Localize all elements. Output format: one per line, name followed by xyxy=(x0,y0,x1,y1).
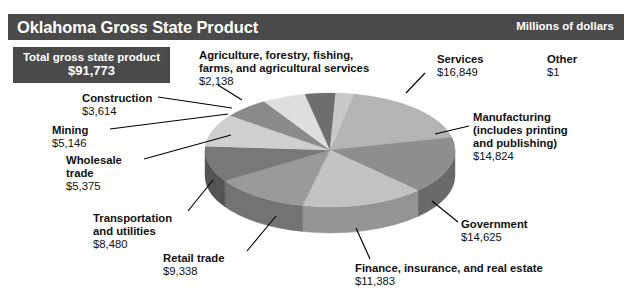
label-mining: Mining $5,146 xyxy=(52,124,88,150)
label-transportation-and-utilities: Transportation and utilities $8,480 xyxy=(93,212,172,251)
label-wholesale-name: Wholesale xyxy=(66,154,122,167)
label-retail-value: $9,338 xyxy=(163,265,225,278)
label-manufacturing-value: $14,824 xyxy=(473,150,568,163)
label-construction-value: $3,614 xyxy=(82,105,152,118)
label-other-value: $1 xyxy=(547,66,577,79)
label-mining-name: Mining xyxy=(52,124,88,137)
label-agriculture-name: Agriculture, forestry, fishing, xyxy=(199,49,369,62)
label-finance-name: Finance, insurance, and real estate xyxy=(355,262,543,275)
label-transportation-value: $8,480 xyxy=(93,238,172,251)
label-government-value: $14,625 xyxy=(461,231,528,244)
label-construction: Construction $3,614 xyxy=(82,92,152,118)
label-finance-insurance-real-estate: Finance, insurance, and real estate $11,… xyxy=(355,262,543,288)
label-manufacturing-name2: (includes printing xyxy=(473,124,568,137)
label-government-name: Government xyxy=(461,218,528,231)
label-manufacturing-name3: and publishing) xyxy=(473,137,568,150)
label-services: Services $16,849 xyxy=(437,53,483,79)
label-transportation-name2: and utilities xyxy=(93,225,172,238)
pie-top-faces xyxy=(205,93,455,207)
label-services-name: Services xyxy=(437,53,483,66)
infographic-root: Oklahoma Gross State Product Millions of… xyxy=(0,0,632,296)
label-construction-name: Construction xyxy=(82,92,152,105)
label-other: Other $1 xyxy=(547,53,577,79)
label-manufacturing-name: Manufacturing xyxy=(473,111,568,124)
label-mining-value: $5,146 xyxy=(52,137,88,150)
label-agriculture-name2: farms, and agricultural services xyxy=(199,62,369,75)
label-other-name: Other xyxy=(547,53,577,66)
label-manufacturing: Manufacturing (includes printing and pub… xyxy=(473,111,568,163)
label-wholesale-trade: Wholesale trade $5,375 xyxy=(66,154,122,193)
label-agriculture: Agriculture, forestry, fishing, farms, a… xyxy=(199,49,369,88)
label-wholesale-value: $5,375 xyxy=(66,180,122,193)
label-services-value: $16,849 xyxy=(437,66,483,79)
label-government: Government $14,625 xyxy=(461,218,528,244)
label-agriculture-value: $2,138 xyxy=(199,75,369,88)
label-finance-value: $11,383 xyxy=(355,275,543,288)
label-retail-trade: Retail trade $9,338 xyxy=(163,252,225,278)
label-wholesale-name2: trade xyxy=(66,167,122,180)
label-retail-name: Retail trade xyxy=(163,252,225,265)
label-transportation-name: Transportation xyxy=(93,212,172,225)
